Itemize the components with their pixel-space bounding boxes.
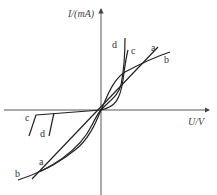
label-b-top: b (164, 54, 169, 65)
label-a-bottom: a (39, 156, 44, 167)
label-d-top: d (112, 39, 117, 50)
curve-d-reverse (49, 113, 54, 136)
label-a-top: a (151, 42, 156, 53)
label-c-top: c (131, 45, 136, 56)
label-c-bottom: c (25, 112, 30, 123)
y-axis-label: I/(mA) (67, 8, 95, 20)
x-axis-label: U/V (188, 116, 206, 127)
curve-a (32, 47, 158, 179)
label-b-bottom: b (15, 168, 20, 179)
label-d-bottom: d (40, 128, 45, 139)
iv-characteristic-diagram: I/(mA) U/V d c a b c d a b (0, 0, 217, 195)
